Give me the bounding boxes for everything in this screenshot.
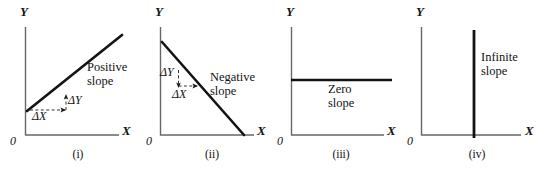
panel-iv-y-axis-label: Y	[416, 5, 424, 19]
panel-ii-delta-x-label: ΔX	[172, 88, 186, 101]
panel-ii-note-line2: slope	[210, 85, 236, 99]
panel-iv-note-line1: Infinite	[481, 51, 518, 65]
panel-i-x-axis-label: X	[122, 124, 131, 138]
panel-iv-origin-label: 0	[407, 135, 413, 148]
panel-i-delta-x-arrow	[61, 108, 67, 113]
panel-ii-note-line1: Negative	[210, 71, 255, 85]
panel-i-note-line2: slope	[87, 75, 113, 89]
panel-i-note-line1: Positive	[87, 61, 127, 75]
panel-iii-caption: (iii)	[301, 148, 381, 160]
panel-ii-x-axis-label: X	[257, 124, 266, 138]
panel-iii-note-line2: slope	[328, 97, 354, 111]
panel-i-caption: (i)	[38, 148, 118, 160]
panel-iv-caption: (iv)	[437, 148, 517, 160]
panel-i-origin-label: 0	[10, 135, 16, 148]
panel-ii-y-axis-label: Y	[155, 5, 163, 19]
panel-ii-caption: (ii)	[172, 148, 252, 160]
panel-ii-delta-x-arrow	[193, 84, 199, 89]
panel-iii-note-line1: Zero	[328, 83, 352, 97]
panel-ii-origin-label: 0	[146, 135, 152, 148]
panel-ii-delta-y-label: ΔY	[160, 66, 174, 79]
panel-i-delta-y-label: ΔY	[68, 94, 82, 107]
panel-iii-y-axis-label: Y	[286, 5, 294, 19]
panel-iv-graph	[422, 27, 522, 138]
panel-iii-x-axis-label: X	[387, 124, 396, 138]
panel-i-delta-x-label: ΔX	[32, 110, 46, 123]
panel-iv-note-line2: slope	[481, 65, 507, 79]
panel-iii-origin-label: 0	[277, 135, 283, 148]
slope-types-figure: Y X 0 ΔY ΔX Positive slope (i) Y X 0 ΔY …	[0, 0, 558, 171]
panel-iv-x-axis-label: X	[525, 124, 534, 138]
panel-i-y-axis-label: Y	[20, 5, 28, 19]
